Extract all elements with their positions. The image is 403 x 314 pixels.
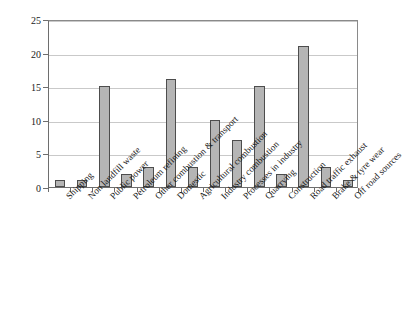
x-tick-mark xyxy=(181,188,182,192)
x-axis-ticks xyxy=(48,188,358,193)
bar xyxy=(343,180,354,187)
x-tick-mark xyxy=(247,188,248,192)
x-tick-mark xyxy=(336,188,337,192)
x-tick-mark xyxy=(92,188,93,192)
bar xyxy=(188,167,199,187)
x-tick-mark xyxy=(269,188,270,192)
x-tick-mark xyxy=(114,188,115,192)
y-axis-ticks xyxy=(0,20,48,188)
plot-area xyxy=(48,20,358,188)
x-tick-mark xyxy=(203,188,204,192)
bar xyxy=(77,180,88,187)
y-tick-label: 20 xyxy=(1,48,41,59)
x-tick-mark xyxy=(159,188,160,192)
bar xyxy=(276,174,287,187)
bar xyxy=(55,180,66,187)
x-tick-mark xyxy=(358,188,359,192)
x-tick-mark xyxy=(137,188,138,192)
x-tick-mark xyxy=(225,188,226,192)
x-axis-label: Off road sources xyxy=(352,150,403,201)
x-tick-mark xyxy=(314,188,315,192)
x-tick-mark xyxy=(70,188,71,192)
x-tick-mark xyxy=(48,188,49,192)
x-tick-mark xyxy=(292,188,293,192)
y-tick-label: 5 xyxy=(1,149,41,160)
y-tick-label: 15 xyxy=(1,82,41,93)
bar xyxy=(143,167,154,187)
y-tick-label: 10 xyxy=(1,115,41,126)
bar xyxy=(298,46,309,187)
y-tick-label: 0 xyxy=(1,183,41,194)
bar xyxy=(166,79,177,187)
bar xyxy=(321,167,332,187)
y-tick-label: 25 xyxy=(1,15,41,26)
bar xyxy=(254,86,265,187)
bar xyxy=(99,86,110,187)
bar xyxy=(121,174,132,187)
bar xyxy=(210,120,221,187)
bars-layer xyxy=(49,21,357,187)
bar xyxy=(232,140,243,187)
